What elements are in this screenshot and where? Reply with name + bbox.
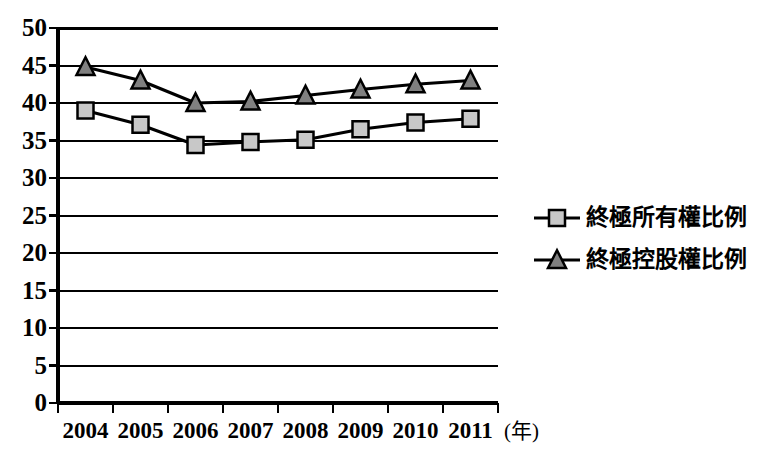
x-axis-unit-label: (年) bbox=[504, 421, 539, 442]
y-axis-tick-50: 50 bbox=[22, 15, 47, 40]
y-axis-tick-0: 0 bbox=[35, 390, 48, 415]
x-axis-tick-2011: 2011 bbox=[431, 419, 511, 442]
y-axis-tick-5: 5 bbox=[35, 353, 48, 378]
y-axis-tick-20: 20 bbox=[22, 240, 47, 265]
y-axis-tick-35: 35 bbox=[22, 128, 47, 153]
chart-container: 05101520253035404550 2004200520062007200… bbox=[0, 0, 760, 459]
y-axis-tick-10: 10 bbox=[22, 315, 47, 340]
y-axis-tick-40: 40 bbox=[22, 90, 47, 115]
legend-glyphs bbox=[534, 210, 580, 268]
y-axis-tick-30: 30 bbox=[22, 165, 47, 190]
legend-item-label-ownership: 終極所有權比例 bbox=[586, 206, 747, 229]
series-markers bbox=[77, 57, 480, 153]
y-axis-tick-45: 45 bbox=[22, 53, 47, 78]
y-axis-tick-15: 15 bbox=[22, 278, 47, 303]
legend-item-label-control: 終極控股權比例 bbox=[586, 248, 747, 271]
y-axis-tick-25: 25 bbox=[22, 203, 47, 228]
